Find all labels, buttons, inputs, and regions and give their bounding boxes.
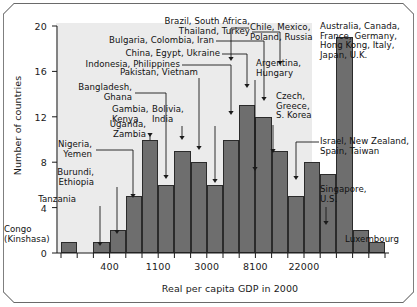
x-axis-label: Real per capita GDP in 2000 [120, 283, 340, 294]
annotation-bangladesh: Bangladesh, Ghana [64, 83, 132, 102]
annotation-nigeria: Nigeria, Yemen [24, 140, 92, 159]
annotation-brazil: Brazil, South Africa, Thailand, Turkey [140, 17, 250, 36]
y-axis-label: Number of countries [12, 61, 23, 191]
y-tick-label: 0 [25, 248, 47, 259]
x-tick-label: 400 [88, 261, 132, 272]
annotation-bulgaria: Bulgaria, Colombia, Iran [58, 36, 214, 46]
annotation-congo: Congo (Kinshasa) [4, 225, 56, 244]
annotation-israel: Israel, New Zealand, Spain, Taiwan [320, 137, 412, 156]
y-tick-label: 20 [25, 21, 47, 32]
y-tick-label: 16 [25, 66, 47, 77]
annotation-china: China, Egypt, Ukraine [90, 49, 220, 59]
annotation-luxembourg: Luxembourg [345, 235, 411, 245]
annotation-burundi: Burundi, Ethiopia [32, 168, 94, 187]
annotation-australia: Australia, Canada, France, Germany, Hong… [320, 22, 414, 60]
x-tick-label: 3000 [185, 261, 229, 272]
annotation-tanzania: Tanzania [18, 195, 76, 205]
annotation-argentina: Argentina, Hungary [256, 59, 318, 78]
annotation-bolivia: Bolivia, India [152, 105, 192, 124]
figure-sheet: 048121620 40011003000810022000 Number of… [0, 0, 417, 307]
y-tick-label: 12 [25, 112, 47, 123]
x-tick-label: 1100 [136, 261, 180, 272]
annotation-chile: Chile, Mexico, Poland, Russia [250, 23, 326, 42]
annotation-singapore: Singapore, U.S. [320, 185, 382, 204]
annotation-indonesia: Indonesia, Philippines [52, 60, 180, 70]
x-tick-label: 8100 [233, 261, 277, 272]
annotation-czech: Czech, Greece, S. Korea [276, 92, 328, 121]
x-tick-label: 22000 [282, 261, 326, 272]
